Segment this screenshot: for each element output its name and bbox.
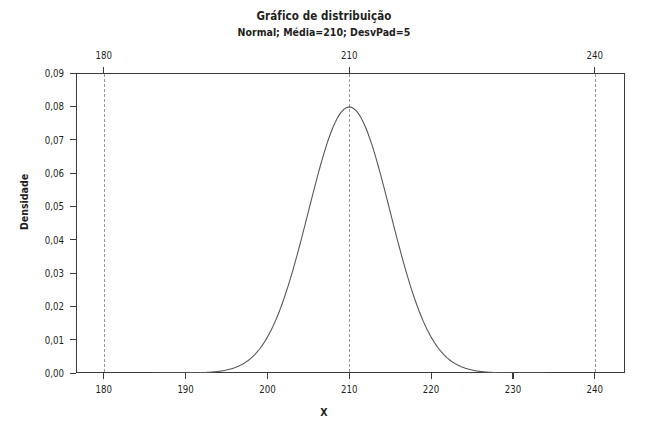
chart-subtitle: Normal; Média=210; DesvPad=5 [0,26,648,38]
x-tick-label: 200 [259,384,275,395]
normal-distribution-curve [76,73,625,373]
x-tick-label: 220 [423,384,439,395]
top-x-tick-label: 210 [341,50,357,61]
y-tick-mark [70,273,76,274]
y-tick-mark [70,239,76,240]
y-tick-label: 0,00 [4,368,64,379]
y-tick-label: 0,03 [4,268,64,279]
x-tick-label: 180 [96,384,112,395]
y-tick-label: 0,07 [4,134,64,145]
y-axis-title: Densidade [18,162,30,242]
y-tick-label: 0,02 [4,301,64,312]
chart-canvas: Gráfico de distribuição Normal; Média=21… [0,0,648,434]
y-tick-label: 0,04 [4,234,64,245]
x-tick-mark [512,373,513,379]
y-tick-mark [70,339,76,340]
y-tick-mark [70,106,76,107]
x-axis-title: X [0,406,648,418]
y-tick-mark [70,173,76,174]
y-tick-label: 0,06 [4,168,64,179]
y-tick-mark [70,139,76,140]
y-tick-label: 0,05 [4,201,64,212]
y-tick-label: 0,08 [4,101,64,112]
y-tick-label: 0,09 [4,68,64,79]
x-tick-mark [267,373,268,379]
x-tick-mark [431,373,432,379]
y-tick-mark [70,373,76,374]
x-tick-mark [103,373,104,379]
y-tick-mark [70,73,76,74]
x-tick-label: 190 [177,384,193,395]
y-tick-mark [70,206,76,207]
y-tick-label: 0,01 [4,334,64,345]
x-tick-mark [185,373,186,379]
x-tick-label: 240 [586,384,602,395]
x-tick-mark [349,373,350,379]
chart-title: Gráfico de distribuição [0,9,648,23]
x-tick-label: 230 [505,384,521,395]
y-axis-tick-labels: 0,000,010,020,030,040,050,060,070,080,09 [0,0,66,434]
y-tick-mark [70,306,76,307]
x-tick-label: 210 [341,384,357,395]
top-x-tick-label: 180 [96,50,112,61]
top-x-tick-label: 240 [586,50,602,61]
x-tick-mark [594,373,595,379]
